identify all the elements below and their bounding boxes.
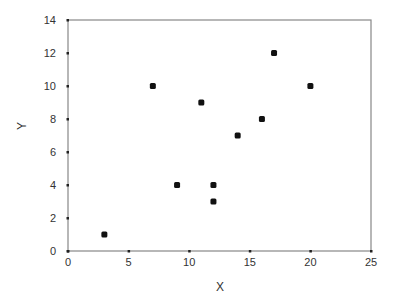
x-tick-label: 10: [183, 256, 195, 268]
data-point: [174, 182, 180, 188]
x-tick-label: 0: [65, 256, 71, 268]
y-axis-label: Y: [15, 122, 29, 130]
x-tick-mark: [67, 250, 70, 253]
y-tick-label: 8: [50, 113, 56, 125]
data-points: [101, 50, 313, 238]
x-tick-mark: [309, 250, 312, 253]
y-tick-mark: [67, 184, 70, 187]
y-tick-label: 0: [50, 245, 56, 257]
x-tick-mark: [249, 250, 252, 253]
y-tick-mark: [67, 217, 70, 220]
y-tick-mark: [67, 19, 70, 22]
data-point: [198, 100, 204, 106]
y-axis-ticks: 02468101214: [44, 14, 69, 257]
y-tick-label: 12: [44, 47, 56, 59]
y-tick-label: 10: [44, 80, 56, 92]
data-point: [101, 232, 107, 238]
x-tick-mark: [188, 250, 191, 253]
y-tick-mark: [67, 151, 70, 154]
x-axis-ticks: 0510152025: [65, 250, 377, 268]
scatter-chart: 02468101214 0510152025 X Y: [0, 0, 395, 305]
data-point: [150, 83, 156, 89]
data-point: [271, 50, 277, 56]
x-tick-mark: [370, 250, 373, 253]
y-tick-mark: [67, 52, 70, 55]
y-tick-label: 14: [44, 14, 56, 26]
y-tick-label: 2: [50, 212, 56, 224]
data-point: [210, 199, 216, 205]
y-tick-mark: [67, 118, 70, 121]
x-tick-label: 25: [365, 256, 377, 268]
data-point: [307, 83, 313, 89]
plot-border: [68, 20, 371, 251]
x-tick-label: 5: [126, 256, 132, 268]
plot-frame: [68, 20, 371, 251]
data-point: [210, 182, 216, 188]
data-point: [235, 133, 241, 139]
x-axis-label: X: [216, 280, 224, 294]
y-tick-label: 6: [50, 146, 56, 158]
y-tick-mark: [67, 85, 70, 88]
x-tick-label: 15: [244, 256, 256, 268]
y-tick-label: 4: [50, 179, 56, 191]
x-tick-mark: [128, 250, 131, 253]
data-point: [259, 116, 265, 122]
x-tick-label: 20: [304, 256, 316, 268]
